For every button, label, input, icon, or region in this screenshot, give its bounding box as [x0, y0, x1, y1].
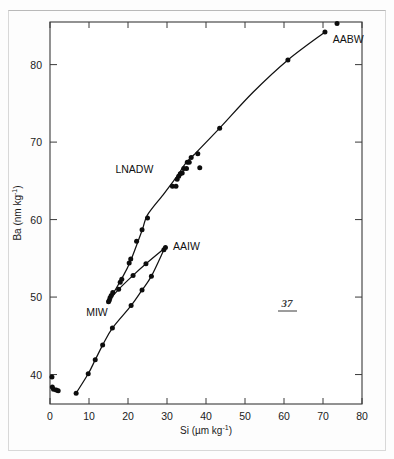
- data-point: [195, 151, 200, 156]
- data-point: [128, 257, 133, 262]
- data-point: [140, 227, 145, 232]
- data-point: [100, 343, 105, 348]
- x-tick-label: 40: [200, 410, 212, 422]
- data-point: [49, 374, 54, 379]
- y-tick-label: 60: [30, 214, 42, 226]
- y-axis-title: Ba (nm kg-1): [11, 185, 23, 240]
- series-label-aaiw: AAIW: [173, 240, 200, 252]
- data-point: [180, 171, 185, 176]
- data-point: [86, 371, 91, 376]
- data-point: [184, 166, 189, 171]
- y-tick-label: 50: [30, 291, 42, 303]
- data-point: [189, 155, 194, 160]
- x-tick-label: 10: [83, 410, 95, 422]
- page-number-text: 37: [281, 297, 294, 309]
- x-tick-label: 80: [356, 410, 368, 422]
- x-tick-label: 70: [317, 410, 329, 422]
- data-point: [134, 239, 139, 244]
- series-label-lnadw: LNADW: [115, 163, 153, 175]
- data-point: [110, 290, 115, 295]
- data-point: [116, 287, 121, 292]
- data-point: [56, 388, 61, 393]
- data-point: [129, 303, 134, 308]
- data-point: [131, 273, 136, 278]
- ba-vs-si-scatter-chart: 010203040506070804050607080 AABWLNADWAAI…: [0, 0, 394, 459]
- series-label-aabw: AABW: [333, 33, 364, 45]
- data-point: [145, 216, 150, 221]
- x-tick-label: 0: [47, 410, 53, 422]
- data-point: [93, 357, 98, 362]
- x-tick-label: 20: [122, 410, 134, 422]
- x-axis-title: Si (µm kg-1): [180, 424, 232, 436]
- data-point: [143, 261, 148, 266]
- plot-area-rect: [50, 22, 362, 404]
- data-point: [173, 184, 178, 189]
- y-tick-label: 70: [30, 136, 42, 148]
- x-tick-label: 30: [161, 410, 173, 422]
- data-point: [74, 391, 79, 396]
- x-tick-label: 50: [239, 410, 251, 422]
- data-point: [187, 160, 192, 165]
- y-tick-label: 80: [30, 59, 42, 71]
- data-point: [110, 326, 115, 331]
- figure-page: 010203040506070804050607080 AABWLNADWAAI…: [0, 0, 394, 459]
- data-point: [149, 274, 154, 279]
- data-point: [335, 21, 340, 26]
- data-point: [163, 245, 168, 250]
- data-point: [140, 288, 145, 293]
- x-tick-label: 60: [278, 410, 290, 422]
- data-point: [285, 57, 290, 62]
- data-point: [322, 30, 327, 35]
- y-tick-label: 40: [30, 369, 42, 381]
- data-point: [119, 277, 124, 282]
- series-label-miw: MIW: [86, 306, 108, 318]
- plot-frame: [50, 22, 362, 404]
- data-point: [217, 126, 222, 131]
- data-point: [197, 165, 202, 170]
